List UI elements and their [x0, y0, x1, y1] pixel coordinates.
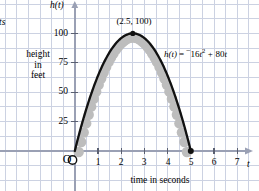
x-tick-label-5: 5 [189, 158, 194, 168]
x-tick-label-2: 2 [119, 158, 124, 168]
x-axis-symbol-label: t [247, 160, 250, 170]
landing-point [188, 148, 194, 154]
y-axis-caption-line-2: in [14, 61, 62, 71]
x-tick-label-1: 1 [96, 158, 101, 168]
equation-plus-sign: + [208, 49, 213, 59]
motion-trail-shadow-mask [0, 0, 259, 191]
vertex-annotation-label: (2.5, 100) [116, 17, 151, 26]
x-tick-label-7: 7 [235, 158, 240, 168]
x-axis-caption: time in seconds [130, 176, 189, 186]
x-tick-label-6: 6 [212, 158, 217, 168]
x-tick-label-4: 4 [166, 158, 171, 168]
y-axis-caption: height in feet [14, 50, 62, 81]
y-axis-caption-line-1: height [14, 50, 62, 60]
equation-coefficient-a: 16 [191, 49, 200, 59]
clipped-left-text: ts [0, 18, 5, 28]
x-tick-label-3: 3 [142, 158, 147, 168]
y-axis-symbol-label: h(t) [50, 1, 64, 11]
equation-annotation: h(t)=−16t2+80t [164, 47, 227, 59]
equation-equals-sign: = [179, 49, 184, 59]
origin-label-o: O [63, 153, 72, 165]
y-tick-label-100: 100 [54, 29, 68, 39]
parabola-height-vs-time-figure: ts h(t) t 100 75 50 25 1 2 3 4 5 6 7 O h… [0, 0, 259, 191]
y-tick-label-25: 25 [59, 117, 69, 127]
y-tick-label-50: 50 [59, 87, 69, 97]
equation-lhs: h(t) [164, 49, 177, 59]
equation-exponent: 2 [202, 47, 205, 54]
vertex-point [130, 31, 135, 36]
parabola-plot [0, 0, 259, 191]
y-axis-caption-line-3: feet [14, 71, 62, 81]
equation-variable-b: t [224, 49, 227, 59]
